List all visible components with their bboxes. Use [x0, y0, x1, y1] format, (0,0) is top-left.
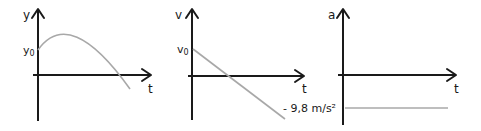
- acceleration-graph: a t - 9,8 m/s²: [283, 8, 459, 125]
- y-axis-label: y: [23, 8, 30, 22]
- t-axis-label: t: [302, 82, 307, 96]
- position-graph: y t y0: [23, 8, 153, 121]
- acceleration-value-label: - 9,8 m/s²: [283, 102, 336, 115]
- t-axis-label: t: [148, 82, 153, 96]
- position-curve: [38, 34, 130, 89]
- kinematics-diagram: y t y0 v t v0 a t - 9,8 m/s²: [0, 0, 481, 131]
- y0-label: y0: [23, 44, 35, 58]
- v0-label: v0: [177, 43, 189, 57]
- a-axis-label: a: [328, 8, 335, 22]
- velocity-line: [193, 49, 285, 119]
- v-axis-label: v: [175, 8, 182, 22]
- t-axis-label: t: [454, 82, 459, 96]
